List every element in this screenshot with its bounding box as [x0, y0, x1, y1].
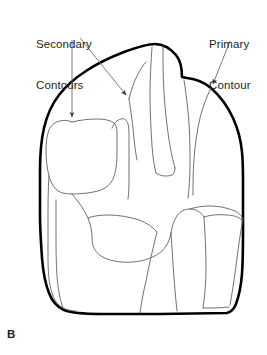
panel-letter-label: B: [7, 328, 15, 340]
label-primary-line2: Contour: [209, 79, 251, 93]
label-secondary-line1: Secondary: [36, 38, 92, 52]
figure-panel-b: Secondary Contours Primary Contour B: [0, 0, 267, 355]
label-secondary-line2: Contours: [36, 79, 92, 93]
label-primary-contour: Primary Contour: [209, 11, 251, 119]
label-secondary-contours: Secondary Contours: [36, 11, 92, 119]
label-primary-line1: Primary: [209, 38, 251, 52]
